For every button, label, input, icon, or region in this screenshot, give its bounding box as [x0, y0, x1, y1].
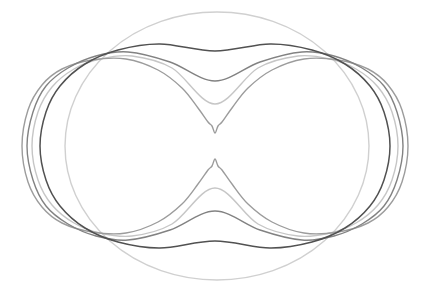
medium-gray-oval — [27, 52, 403, 240]
dark-waisted-oval — [40, 44, 390, 248]
near-lemniscate-oval — [22, 58, 408, 234]
light-pinched-oval — [32, 56, 398, 237]
curve-canvas — [0, 0, 428, 291]
curve-family-figure — [0, 0, 428, 291]
